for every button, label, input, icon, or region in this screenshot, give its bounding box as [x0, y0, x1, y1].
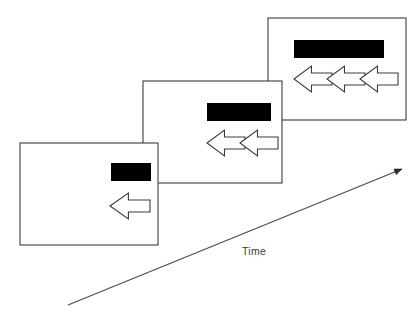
- panel-3-bar: [294, 40, 384, 58]
- diagram-canvas: Time: [0, 0, 419, 313]
- panel-3-frame: [268, 18, 406, 120]
- diagram-svg: Time: [0, 0, 419, 313]
- panel-2-frame: [143, 81, 282, 183]
- time-axis-arrowhead: [394, 169, 402, 175]
- panel-1-bar: [111, 163, 151, 181]
- panel-2: [143, 81, 282, 183]
- panel-1-frame: [20, 143, 158, 245]
- panel-1: [20, 143, 158, 245]
- panel-2-bar: [207, 103, 271, 121]
- time-axis-label: Time: [242, 245, 266, 257]
- panel-3: [268, 18, 406, 120]
